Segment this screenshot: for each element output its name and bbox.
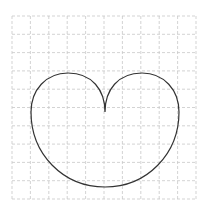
dashed-grid	[12, 16, 196, 199]
heart-curve-figure	[0, 0, 212, 214]
heart-curve	[31, 73, 179, 187]
